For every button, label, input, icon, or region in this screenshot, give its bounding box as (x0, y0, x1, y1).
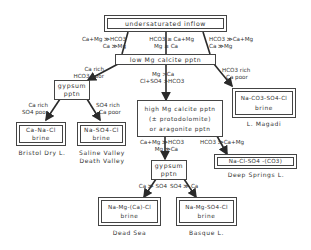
edge-label-inflow-right: HCO3 ≫Ca+Mg Ca ≫Mg (209, 36, 253, 49)
node-label: (± protodolomite) (149, 114, 211, 124)
brine-evolution-diagram: undersaturated inflow Ca+Mg ≫HCO3 Ca ≫Mg… (0, 0, 311, 250)
edge-label-line: Mg ≥ Ca (138, 43, 194, 50)
node-brine-na-so4-cl: Na-SO4-Cl brine (77, 122, 126, 146)
node-brine-na-mg-so4-cl: Na-Mg-SO4-Cl brine (176, 197, 237, 226)
edge-label-line: Ca ≫Mg (72, 43, 126, 50)
edge-label-low-to-high: Mg >Ca Cl+SO4 >HCO3 (140, 71, 184, 84)
brine-composition: Na-CO3-SO4-Cl (241, 93, 287, 103)
edge-label-gypsum2-right: SO4 ≫ Ca (170, 183, 198, 190)
edge-label-line: Ca poor (222, 74, 250, 81)
node-gypsum-pptn-1: gypsum pptn (54, 80, 90, 100)
node-low-mg-calcite-pptn: low Mg calcite pptn (115, 54, 216, 65)
brine-label: brine (32, 134, 50, 142)
node-brine-na-mg-ca-cl: Na-Mg-(Ca)-Cl brine (98, 197, 161, 226)
node-label: gypsum (155, 162, 183, 170)
edge-label-line: HCO3 rich (222, 67, 250, 74)
node-label: pptn (64, 90, 81, 98)
edge-label-high-to-deep-springs: HCO3 ≫Ca+Mg (200, 139, 244, 146)
edge-label-inflow-mid: HCO3 ≥ Ca+Mg Mg ≥ Ca (138, 36, 194, 49)
brine-composition: Na-Cl-SO4 -(CO3) (229, 157, 282, 166)
node-label: or aragonite pptn (150, 124, 211, 134)
example-death-valley: Death Valley (74, 157, 130, 165)
brine-label: brine (121, 212, 139, 221)
node-label: high Mg calcite pptn (144, 104, 215, 114)
edge-label-high-to-gypsum: Ca+Mg ≫HCO3 Mg ≫Ca (130, 139, 184, 152)
edge-label-line: Mg ≫Ca (130, 146, 184, 153)
brine-composition: Ca-Na-Cl (26, 126, 56, 134)
example-deep-springs-lake: Deep Springs L. (222, 171, 290, 179)
node-label: low Mg calcite pptn (130, 55, 202, 64)
node-high-mg-calcite-pptn: high Mg calcite pptn (± protodolomite) o… (137, 100, 223, 137)
brine-label: brine (93, 134, 111, 142)
node-brine-na-co3-so4-cl: Na-CO3-SO4-Cl brine (232, 88, 296, 118)
brine-composition: Na-Mg-(Ca)-Cl (108, 203, 151, 212)
edge-label-line: Ca ≫ SO4 (120, 183, 167, 190)
node-gypsum-pptn-2: gypsum pptn (151, 160, 187, 180)
edge-label-gypsum-right: SO4 rich Ca poor (96, 102, 121, 115)
edge-label-line: HCO3 poor (52, 73, 104, 80)
brine-label: brine (255, 103, 273, 113)
edge-label-line: HCO3 ≫Ca+Mg (200, 139, 244, 146)
example-saline-valley: Saline Valley (74, 149, 130, 157)
edge-label-low-to-gypsum: Ca rich HCO3 poor (52, 66, 104, 79)
edge-label-gypsum2-left: Ca ≫ SO4 (120, 183, 167, 190)
edge-label-line: SO4 rich (96, 102, 121, 109)
edge-label-line: Cl+SO4 >HCO3 (140, 78, 184, 85)
example-lake-magadi: L. Magadi (238, 120, 290, 128)
edge-label-inflow-left: Ca+Mg ≫HCO3 Ca ≫Mg (72, 36, 126, 49)
brine-label: brine (198, 212, 216, 221)
node-label: undersaturated inflow (125, 19, 206, 28)
brine-composition: Na-Mg-SO4-Cl (185, 203, 228, 212)
example-bristol-dry-lake: Bristol Dry L. (12, 149, 72, 157)
example-basque-lake: Basque L. (176, 229, 237, 237)
edge-label-line: SO4 poor (10, 109, 48, 116)
brine-composition: Na-SO4-Cl (84, 126, 119, 134)
edge-label-line: Ca poor (96, 109, 121, 116)
edge-label-line: Ca ≫Mg (209, 43, 253, 50)
node-label: gypsum (58, 82, 86, 90)
node-brine-ca-na-cl: Ca-Na-Cl brine (16, 122, 66, 146)
edge-label-line: SO4 ≫ Ca (170, 183, 198, 190)
example-dead-sea: Dead Sea (100, 229, 159, 237)
edge-label-line: HCO3 ≫Ca+Mg (209, 36, 253, 43)
node-label: pptn (161, 170, 178, 178)
node-brine-na-cl-so4-co3: Na-Cl-SO4 -(CO3) (214, 154, 297, 169)
edge-label-low-to-magadi: HCO3 rich Ca poor (222, 67, 250, 80)
edge-label-gypsum-left: Ca rich SO4 poor (10, 102, 48, 115)
node-undersaturated-inflow: undersaturated inflow (104, 15, 227, 32)
